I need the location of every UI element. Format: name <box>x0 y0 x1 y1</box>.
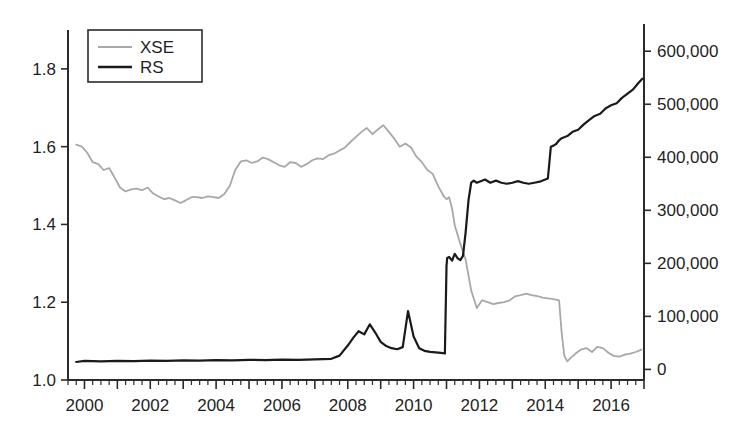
right-axis-tick-label: 500,000 <box>657 95 718 114</box>
left-axis-tick-label: 1.4 <box>32 215 56 234</box>
left-axis-tick-label: 1.6 <box>32 138 56 157</box>
chart-legend: XSERS <box>88 30 202 82</box>
left-axis-tick-label: 1.0 <box>32 371 56 390</box>
x-axis-tick-label: 2008 <box>329 396 367 415</box>
left-axis-tick-label: 1.2 <box>32 293 56 312</box>
right-axis-tick-label: 100,000 <box>657 307 718 326</box>
axis-labels-layer: 1.01.21.41.61.80100,000200,000300,000400… <box>32 42 718 415</box>
left-axis-tick-label: 1.8 <box>32 60 56 79</box>
x-axis-tick-label: 2004 <box>197 396 235 415</box>
right-axis-tick-label: 200,000 <box>657 254 718 273</box>
x-axis-tick-label: 2016 <box>592 396 630 415</box>
x-axis-tick-label: 2002 <box>131 396 169 415</box>
series-layer <box>76 79 642 362</box>
series-line-xse <box>76 125 641 361</box>
chart-container: 1.01.21.41.61.80100,000200,000300,000400… <box>0 0 739 443</box>
legend-label-xse: XSE <box>140 38 174 57</box>
x-axis-tick-label: 2014 <box>526 396 564 415</box>
right-axis-tick-label: 400,000 <box>657 148 718 167</box>
line-chart-svg: 1.01.21.41.61.80100,000200,000300,000400… <box>0 0 739 443</box>
series-line-rs <box>76 79 642 362</box>
right-axis-tick-label: 600,000 <box>657 42 718 61</box>
x-axis-tick-label: 2012 <box>461 396 499 415</box>
right-axis-tick-label: 0 <box>657 360 666 379</box>
x-axis-tick-label: 2000 <box>66 396 104 415</box>
legend-label-rs: RS <box>140 58 164 77</box>
right-axis-tick-label: 300,000 <box>657 201 718 220</box>
x-axis-tick-label: 2010 <box>395 396 433 415</box>
x-axis-tick-label: 2006 <box>263 396 301 415</box>
